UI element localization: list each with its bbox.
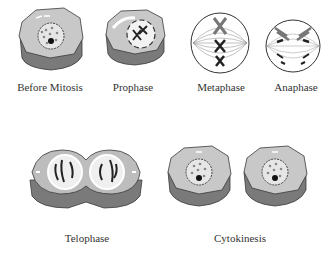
cell-icon <box>103 8 167 66</box>
before-mitosis-cell <box>16 6 86 72</box>
cell-icon <box>263 18 323 74</box>
label-metaphase: Metaphase <box>197 81 245 93</box>
label-anaphase: Anaphase <box>274 81 317 93</box>
dividing-cell-icon <box>28 146 144 212</box>
prophase-cell <box>103 8 167 66</box>
cell-icon <box>188 8 252 74</box>
metaphase-cell <box>188 8 252 74</box>
cell-icon <box>16 6 86 72</box>
cytokinesis-cell-left <box>166 144 232 208</box>
label-telophase: Telophase <box>65 232 109 244</box>
cytokinesis-cell-right <box>242 144 308 208</box>
cell-icon <box>166 144 232 208</box>
label-cytokinesis: Cytokinesis <box>214 232 266 244</box>
telophase-cell <box>28 146 144 212</box>
label-before-mitosis: Before Mitosis <box>17 81 83 93</box>
label-prophase: Prophase <box>113 81 153 93</box>
cell-icon <box>242 144 308 208</box>
anaphase-cell <box>263 18 323 74</box>
